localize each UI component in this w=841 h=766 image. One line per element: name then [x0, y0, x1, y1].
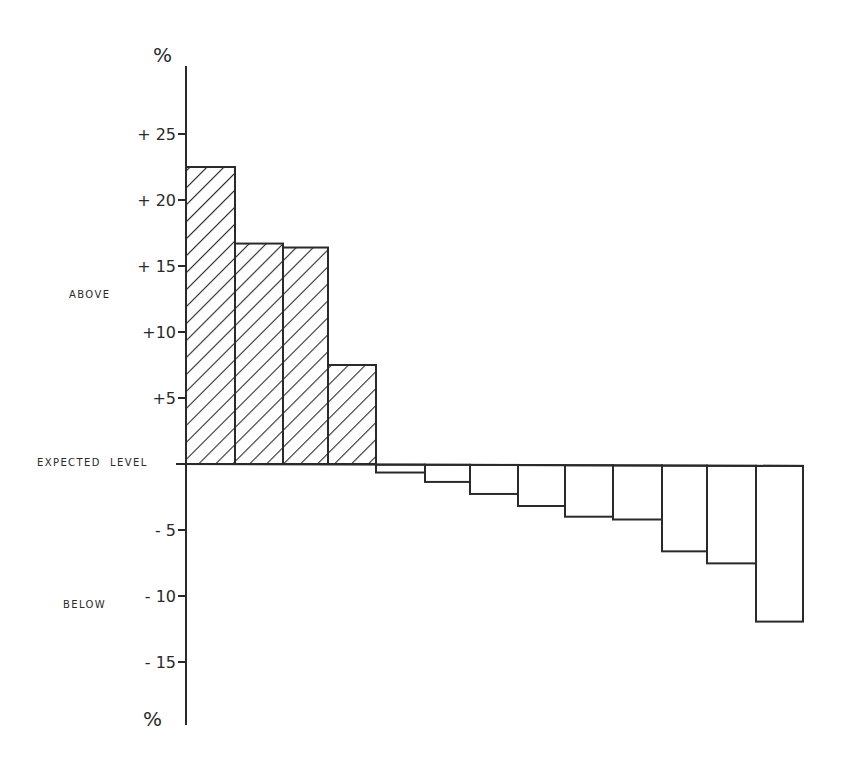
y-axis-unit-top: %	[153, 43, 172, 67]
bar-12	[707, 466, 756, 564]
y-tick-label: + 15	[137, 257, 176, 276]
expected-level-label: EXPECTED LEVEL	[37, 457, 148, 468]
bar-9	[565, 465, 613, 516]
bar-2	[235, 244, 283, 464]
bar-4	[328, 365, 376, 464]
above-label: ABOVE	[69, 289, 110, 300]
bar-11	[662, 466, 707, 552]
expected-level-baseline	[176, 464, 803, 466]
y-tick-label: - 5	[155, 521, 176, 540]
y-ticks: + 25+ 20+ 15+10+5- 5- 10- 15	[137, 125, 186, 672]
below-label: BELOW	[63, 599, 106, 610]
bar-6	[425, 465, 470, 482]
bar-13	[756, 466, 803, 622]
y-tick-label: +10	[142, 323, 176, 342]
bar-10	[613, 465, 662, 519]
y-axis-unit-bottom: %	[143, 707, 162, 731]
bar-8	[518, 465, 565, 506]
y-tick-label: - 15	[145, 653, 176, 672]
bar-1	[186, 167, 235, 464]
y-tick-label: +5	[152, 389, 176, 408]
chart: + 25+ 20+ 15+10+5- 5- 10- 15 % % ABOVE E…	[0, 0, 841, 766]
chart-svg: + 25+ 20+ 15+10+5- 5- 10- 15 % % ABOVE E…	[0, 0, 841, 766]
y-tick-label: - 10	[145, 587, 176, 606]
y-tick-label: + 20	[137, 191, 176, 210]
bars	[186, 167, 803, 622]
bar-5	[376, 465, 425, 473]
bar-7	[470, 465, 518, 494]
bar-3	[283, 248, 328, 464]
y-tick-label: + 25	[137, 125, 176, 144]
